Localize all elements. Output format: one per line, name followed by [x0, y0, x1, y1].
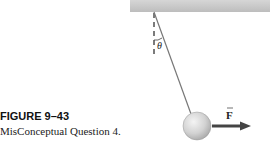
- pendulum-string: [154, 12, 191, 114]
- force-label: F: [226, 109, 233, 121]
- ceiling: [130, 0, 270, 12]
- pendulum-ball: [183, 112, 211, 140]
- figure-caption: MisConceptual Question 4.: [0, 125, 121, 137]
- angle-theta-label: θ: [157, 40, 162, 51]
- force-arrow-head: [240, 122, 251, 131]
- figure-label: FIGURE 9–43: [0, 110, 69, 122]
- pendulum-diagram: [0, 0, 270, 144]
